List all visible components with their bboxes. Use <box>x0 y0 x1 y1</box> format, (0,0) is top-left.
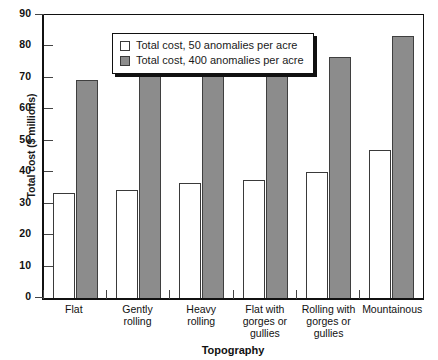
bar <box>306 172 328 298</box>
y-tick-label: 60 <box>19 101 31 113</box>
bar <box>369 150 391 298</box>
x-tick-mark <box>43 290 44 299</box>
bar <box>179 183 201 298</box>
x-tick-label: Rolling withgorges orgullies <box>297 303 361 339</box>
x-axis-title: Topography <box>42 344 424 356</box>
plot-area: 0102030405060708090 Total cost, 50 anoma… <box>42 14 424 300</box>
bar <box>243 180 265 298</box>
y-tick-label: 10 <box>19 259 31 271</box>
y-tick-label: 20 <box>19 227 31 239</box>
legend-item: Total cost, 50 anomalies per acre <box>120 38 304 53</box>
x-tick-mark <box>233 290 234 299</box>
bar-group <box>44 15 107 298</box>
y-tick-label: 40 <box>19 164 31 176</box>
y-tick-mark <box>35 14 44 15</box>
x-tick-mark <box>359 290 360 299</box>
y-tick-label: 50 <box>19 133 31 145</box>
x-tick-label: Mountainous <box>360 303 424 339</box>
bar <box>392 36 414 298</box>
x-tick-label: Flat withgorges orgullies <box>233 303 297 339</box>
x-tick-label: Gentlyrolling <box>106 303 170 339</box>
bar-group <box>360 15 423 298</box>
x-tick-mark <box>106 290 107 299</box>
bar <box>329 57 351 298</box>
x-tick-label: Heavyrolling <box>169 303 233 339</box>
legend-swatch-light-icon <box>120 41 130 51</box>
legend-item: Total cost, 400 anomalies per acre <box>120 53 304 68</box>
x-tick-mark <box>169 290 170 299</box>
y-tick-label: 70 <box>19 70 31 82</box>
bar-chart-figure: Total cost ($ millions) 0102030405060708… <box>0 0 438 360</box>
bar <box>266 66 288 298</box>
y-tick-label: 80 <box>19 38 31 50</box>
legend-swatch-dark-icon <box>120 56 130 66</box>
legend: Total cost, 50 anomalies per acre Total … <box>112 33 314 74</box>
y-tick-label: 30 <box>19 196 31 208</box>
x-tick-mark <box>296 290 297 299</box>
y-tick-label: 0 <box>25 290 31 302</box>
bar <box>76 80 98 298</box>
bar <box>139 76 161 298</box>
legend-label: Total cost, 50 anomalies per acre <box>136 38 297 53</box>
y-tick-label: 90 <box>19 7 31 19</box>
x-axis-tick-labels: FlatGentlyrollingHeavyrollingFlat withgo… <box>42 303 424 339</box>
bar <box>116 190 138 298</box>
bar <box>53 193 75 298</box>
legend-label: Total cost, 400 anomalies per acre <box>136 53 304 68</box>
bar <box>202 69 224 298</box>
x-tick-label: Flat <box>42 303 106 339</box>
